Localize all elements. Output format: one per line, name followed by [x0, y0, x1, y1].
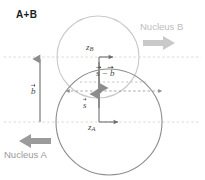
nucleus-b-motion-arrow: [143, 36, 175, 50]
impact-parameter-line: [66, 82, 162, 91]
figure-canvas: A+B Nucleus B Nucleus A zB zA b s s − b: [0, 0, 205, 180]
vector-b-label: b: [31, 87, 36, 96]
nucleus-a-motion-arrow: [19, 134, 51, 148]
vector-s-minus-b-accented: s − b: [96, 69, 115, 78]
vector-b-accented: b: [31, 87, 36, 96]
vector-s-minus-b-label: s − b: [96, 69, 115, 78]
vector-s-label: s: [83, 101, 87, 110]
vector-arrow-accent-icon: [83, 96, 87, 101]
nucleus-b-label: Nucleus B: [140, 22, 183, 32]
nucleus-a-label: Nucleus A: [4, 150, 47, 160]
vector-s-accented: s: [83, 101, 87, 110]
vector-b-symbol: b: [31, 86, 36, 96]
vector-arrow-accent-icon: [31, 82, 36, 87]
vector-s-minus-b-symbol: s − b: [96, 68, 115, 78]
axis-za-label: zA: [88, 123, 96, 133]
figure-title: A+B: [16, 10, 37, 20]
vector-s-symbol: s: [83, 100, 87, 110]
axis-za-subscript: A: [92, 125, 96, 132]
impact-point-dot: [96, 88, 101, 93]
axis-zb-subscript: B: [90, 45, 94, 52]
vector-arrow-accent-icon: [96, 64, 115, 69]
axis-zb-label: zB: [86, 43, 94, 53]
axis-za: [99, 91, 118, 122]
